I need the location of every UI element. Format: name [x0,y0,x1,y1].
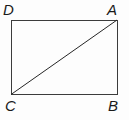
geometry-figure: D A C B [0,0,129,120]
diagonal-line-ca [11,20,117,95]
vertex-label-b: B [108,98,118,113]
vertex-label-c: C [5,98,16,113]
vertex-label-d: D [3,2,14,17]
vertex-label-a: A [107,2,117,17]
